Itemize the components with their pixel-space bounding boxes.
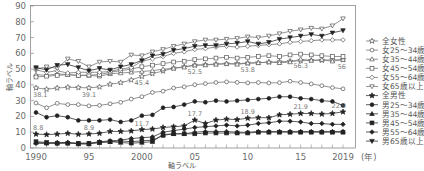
data-point <box>119 120 123 124</box>
data-point <box>299 52 303 56</box>
data-point <box>278 81 282 85</box>
data-point <box>161 106 165 110</box>
data-point <box>193 132 197 136</box>
data-label: 56.3 <box>293 62 307 70</box>
data-point <box>267 54 271 58</box>
legend-label: 男55～64歳 <box>382 127 424 137</box>
data-point <box>87 118 91 122</box>
data-point <box>140 54 145 58</box>
data-point <box>235 56 239 60</box>
data-point <box>139 74 144 79</box>
data-point <box>246 131 250 135</box>
data-point <box>44 132 49 137</box>
data-point <box>298 57 303 61</box>
series-line <box>36 131 343 144</box>
legend-label: 男35～44歳 <box>382 109 424 119</box>
x-axis: 19909520000510152019 <box>25 145 354 163</box>
x-tick-label: 2000 <box>131 152 153 162</box>
data-point <box>118 80 123 85</box>
data-point <box>203 100 207 104</box>
legend-marker-icon <box>369 38 374 43</box>
y-tick-label: 80 <box>15 17 26 27</box>
data-point <box>288 95 292 99</box>
data-point <box>341 55 345 59</box>
data-point <box>256 55 260 59</box>
legend-label: 女45～54歳 <box>382 63 424 73</box>
data-point <box>34 101 38 105</box>
data-point <box>214 131 218 135</box>
data-point <box>330 111 335 116</box>
data-point <box>266 115 271 120</box>
legend-item: 男45～54歳 <box>366 118 424 128</box>
data-point <box>203 82 207 86</box>
data-point <box>182 103 186 107</box>
data-point <box>129 118 133 122</box>
data-point <box>98 118 102 122</box>
data-point <box>45 115 49 119</box>
data-point <box>76 131 81 136</box>
data-point <box>86 85 91 90</box>
data-point <box>309 82 313 86</box>
data-label: 11.7 <box>135 120 149 128</box>
legend-item: 男65歳以上 <box>366 136 424 146</box>
data-point <box>65 130 70 135</box>
data-point <box>309 130 313 134</box>
legend-marker-icon <box>370 130 375 135</box>
data-point <box>55 101 59 105</box>
data-label: 8.8 <box>33 124 43 132</box>
data-point <box>172 105 176 109</box>
data-point <box>87 104 91 108</box>
data-point <box>76 118 80 122</box>
data-point <box>277 119 282 124</box>
data-point <box>320 34 325 38</box>
data-point <box>320 130 324 134</box>
data-point <box>203 57 207 61</box>
data-point <box>278 95 282 99</box>
data-label: 38.1 <box>33 91 47 99</box>
legend-item: 全男性 <box>366 90 406 100</box>
data-point <box>245 44 250 49</box>
legend-item: 男25～34歳 <box>366 100 424 110</box>
data-point <box>34 75 38 79</box>
x-tick-label: 95 <box>84 152 95 162</box>
data-point <box>320 27 325 31</box>
data-point <box>320 121 325 126</box>
data-point <box>246 81 250 85</box>
data-point <box>119 100 123 104</box>
data-point <box>34 111 38 115</box>
legend-label: 男65歳以上 <box>382 136 424 146</box>
legend-item: 女65歳以上 <box>366 81 424 91</box>
y-tick-label: 70 <box>15 33 26 43</box>
y-tick-label: 50 <box>15 64 26 74</box>
data-point <box>33 85 38 90</box>
data-point <box>246 55 250 59</box>
data-label: 18.9 <box>240 108 254 116</box>
data-point <box>54 131 59 136</box>
y-axis: 0102030405060708090 <box>15 1 34 153</box>
data-point <box>256 97 260 101</box>
data-point <box>129 128 134 133</box>
data-point <box>256 36 261 40</box>
data-point <box>151 63 155 67</box>
data-point <box>330 122 335 127</box>
data-point <box>87 65 92 69</box>
data-point <box>299 130 303 134</box>
data-point <box>309 121 314 126</box>
data-point <box>213 117 218 122</box>
data-point <box>278 130 282 134</box>
data-point <box>278 55 282 59</box>
data-point <box>320 84 324 88</box>
data-point <box>66 103 70 107</box>
data-label: 52.5 <box>188 68 202 76</box>
data-point <box>225 131 229 135</box>
data-point <box>151 113 155 117</box>
data-point <box>225 80 229 84</box>
legend-marker-icon <box>370 103 374 107</box>
data-point <box>288 130 292 134</box>
data-point <box>341 87 345 91</box>
data-point <box>65 84 70 89</box>
data-point <box>319 111 324 116</box>
y-tick-label: 60 <box>15 48 26 58</box>
data-point <box>331 55 335 59</box>
data-point <box>108 102 112 106</box>
